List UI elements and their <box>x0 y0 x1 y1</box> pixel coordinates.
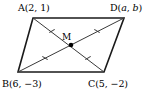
vertex-label-c-text: C(5, −2) <box>88 78 128 89</box>
geometry-figure: A(2, 1) D(a, b) B(6, −3) C(5, −2) M <box>0 0 154 93</box>
vertex-label-b-text: B(6, −3) <box>2 78 42 89</box>
vertex-label-d-name: D <box>110 2 118 13</box>
vertex-label-b: B(6, −3) <box>2 79 42 89</box>
vertex-label-d-paren-close: ) <box>139 2 143 13</box>
vertex-label-a: A(2, 1) <box>18 3 50 13</box>
midpoint-label: M <box>62 33 71 42</box>
vertex-label-c: C(5, −2) <box>88 79 128 89</box>
midpoint-label-text: M <box>62 32 71 42</box>
vertex-label-d: D(a, b) <box>110 3 142 13</box>
diagonal-ac <box>33 18 104 72</box>
vertex-label-a-text: A(2, 1) <box>18 2 50 13</box>
midpoint-dot <box>69 43 74 48</box>
